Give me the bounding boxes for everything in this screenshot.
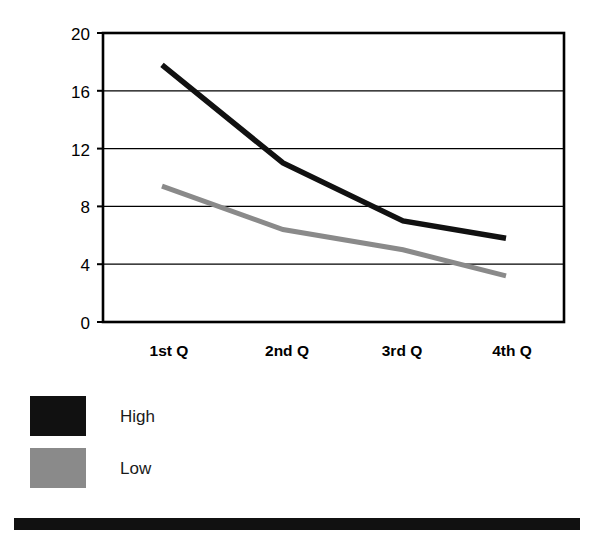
y-tick-label-20: 20 [71, 25, 90, 44]
y-tick-label-16: 16 [71, 83, 90, 102]
chart-legend: High Low [30, 390, 330, 494]
legend-label-low: Low [120, 460, 151, 477]
legend-item-high: High [30, 390, 330, 442]
y-axis-labels: 20 16 12 8 4 0 [71, 25, 90, 333]
y-tick-label-4: 4 [81, 256, 90, 275]
legend-swatch-high-icon [30, 396, 86, 436]
x-tick-label-4th-q: 4th Q [492, 342, 532, 359]
legend-item-low: Low [30, 442, 330, 494]
chart-canvas: 20 16 12 8 4 0 1st Q 2nd Q 3rd Q 4th Q [0, 0, 593, 380]
y-tick-label-0: 0 [81, 314, 90, 333]
legend-label-high: High [120, 408, 155, 425]
line-chart-figure: 20 16 12 8 4 0 1st Q 2nd Q 3rd Q 4th Q [0, 0, 593, 380]
y-tick-label-8: 8 [81, 198, 90, 217]
y-tick-label-12: 12 [71, 141, 90, 160]
bottom-divider-bar [14, 518, 580, 530]
x-tick-label-3rd-q: 3rd Q [382, 342, 422, 359]
x-tick-label-2nd-q: 2nd Q [265, 342, 309, 359]
x-axis-labels: 1st Q 2nd Q 3rd Q 4th Q [150, 342, 532, 359]
legend-swatch-low-icon [30, 448, 86, 488]
x-tick-label-1st-q: 1st Q [150, 342, 189, 359]
